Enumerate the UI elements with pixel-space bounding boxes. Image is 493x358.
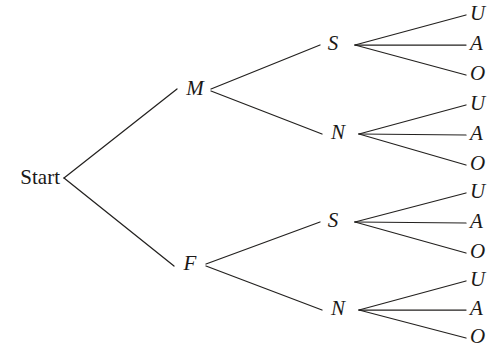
edge-fn-to-o (359, 310, 466, 338)
node-status-m-n: N (330, 120, 346, 144)
leaf-m-n-o: O (470, 151, 485, 175)
leaf-m-n-a: A (468, 121, 483, 145)
leaf-m-s-u: U (470, 1, 487, 25)
edge-f-to-s (206, 222, 320, 264)
leaf-f-n-a: A (468, 296, 483, 320)
tree-diagram-svg: Start M F S N S N U A O U A O U A O U A … (0, 0, 493, 358)
leaf-m-s-o: O (470, 61, 485, 85)
leaf-f-s-o: O (470, 239, 485, 263)
leaf-f-n-o: O (470, 324, 485, 348)
edge-m-to-s (211, 45, 320, 89)
edge-f-to-n (206, 266, 322, 310)
edge-mn-to-o (359, 134, 466, 165)
edge-mn-to-u (359, 105, 466, 134)
edge-fn-to-u (359, 281, 466, 310)
edge-ms-to-u (355, 15, 466, 45)
leaf-m-n-u: U (470, 91, 487, 115)
edge-start-to-f (64, 178, 174, 266)
node-label-group: Start M F S N S N (20, 31, 346, 320)
leaf-m-s-a: A (468, 31, 483, 55)
leaf-f-n-u: U (470, 267, 487, 291)
edge-group (64, 15, 466, 338)
leaf-label-group: U A O U A O U A O U A O (468, 1, 487, 348)
edge-ms-to-o (355, 45, 466, 75)
node-gender-m: M (185, 76, 205, 100)
edge-start-to-m (64, 89, 177, 178)
node-status-f-n: N (330, 296, 346, 320)
tree-diagram-canvas: Start M F S N S N U A O U A O U A O U A … (0, 0, 493, 358)
node-start: Start (20, 165, 60, 189)
edge-fs-to-u (355, 193, 466, 222)
edge-fs-to-o (355, 222, 466, 253)
node-status-f-s: S (328, 208, 339, 232)
leaf-f-s-u: U (470, 179, 487, 203)
edge-m-to-n (211, 91, 322, 134)
node-status-m-s: S (328, 31, 339, 55)
edge-fs-to-a (355, 222, 466, 223)
edge-mn-to-a (359, 134, 466, 135)
leaf-f-s-a: A (468, 209, 483, 233)
node-gender-f: F (183, 251, 197, 275)
